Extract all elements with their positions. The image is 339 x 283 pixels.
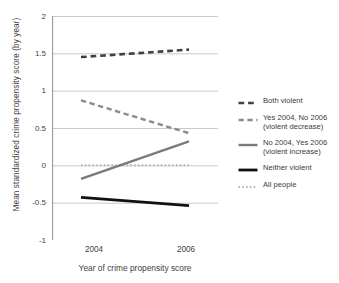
y-tick-label-2: 2	[12, 12, 46, 21]
y-tick-label-0-5: 0.5	[12, 124, 46, 133]
series-line	[81, 141, 189, 178]
legend-swatch-icon-4	[238, 182, 258, 192]
series-line	[81, 197, 189, 205]
legend-swatch-icon-1	[238, 115, 258, 125]
legend-label-3: Neither violent	[263, 163, 312, 172]
legend-label-2: No 2004, Yes 2006 (violent increase)	[263, 138, 327, 157]
legend-item-violent-increase: No 2004, Yes 2006 (violent increase)	[238, 138, 339, 157]
legend-label-0: Both violent	[263, 96, 303, 105]
legend-item-violent-decrease: Yes 2004, No 2006 (violent decrease)	[238, 113, 339, 132]
line-chart: Mean standardized crime propensity score…	[0, 0, 339, 283]
y-tick-label-1: 1	[12, 86, 46, 95]
legend: Both violent Yes 2004, No 2006 (violent …	[238, 96, 339, 196]
plot-svg	[52, 16, 218, 240]
plot-area	[52, 16, 218, 240]
legend-item-neither-violent: Neither violent	[238, 163, 339, 173]
y-tick-label-neg-1: -1	[12, 236, 46, 245]
legend-item-both-violent: Both violent	[238, 96, 339, 106]
legend-label-1: Yes 2004, No 2006 (violent decrease)	[263, 113, 327, 132]
y-tick-label-1-5: 1.5	[12, 49, 46, 58]
legend-swatch-icon-0	[238, 98, 258, 108]
legend-swatch-icon-2	[238, 140, 258, 150]
y-axis-title: Mean standardized crime propensity score…	[12, 3, 21, 227]
legend-swatch-icon-3	[238, 165, 258, 175]
x-tick-label-2004: 2004	[69, 245, 119, 254]
legend-label-4: All people	[263, 180, 296, 189]
x-axis-title: Year of crime propensity score	[40, 263, 230, 273]
legend-item-all-people: All people	[238, 180, 339, 190]
y-tick-label-neg-0-5: -0.5	[12, 198, 46, 207]
y-tick-label-0: 0	[12, 161, 46, 170]
x-tick-label-2006: 2006	[161, 245, 211, 254]
